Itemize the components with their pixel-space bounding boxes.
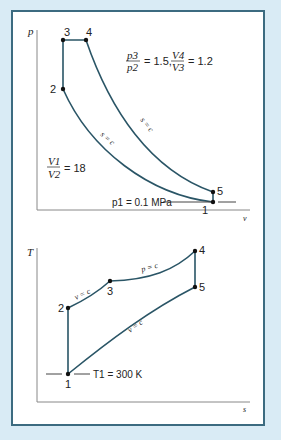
v-const-label-upper: v = c: [73, 286, 92, 301]
ts-point-1: 1: [65, 378, 71, 390]
p-const-label: p = c: [139, 261, 159, 274]
ratio-p-value: = 1.5,: [144, 55, 172, 67]
cr-num: V1: [48, 155, 60, 167]
t1-label: T1 = 300 K: [93, 369, 143, 380]
pv-point-2: 2: [50, 83, 56, 95]
pv-point-1: 1: [202, 204, 208, 216]
pv-point-3: 3: [64, 26, 70, 38]
cr-den: V2: [48, 168, 61, 180]
pv-diagram: p v 3 4 2 5 1 s = c s = c p3 p2 = 1.5, V…: [27, 25, 250, 223]
cr-value: = 18: [64, 162, 86, 174]
pv-point-4: 4: [86, 26, 92, 38]
p-axis-label: p: [27, 25, 34, 37]
ratio-v-den: V3: [172, 61, 185, 73]
ts-point-5: 5: [199, 281, 205, 293]
p1-label: p1 = 0.1 MPa: [112, 197, 172, 208]
t-axis-label: T: [27, 246, 34, 258]
ratio-p-num: p3: [126, 49, 139, 61]
ratio-p-den: p2: [126, 61, 139, 73]
ts-diagram: T s 1 2 3 4 5 v = c p = c v = c T1 = 300…: [27, 244, 250, 414]
ratio-v-value: = 1.2: [188, 55, 213, 67]
pv-point-5: 5: [217, 185, 223, 197]
v-const-label-lower: v = c: [126, 318, 145, 335]
ratio-v-num: V4: [172, 49, 185, 61]
v-axis-label: v: [243, 214, 247, 223]
isentrope-label-upper: s = c: [138, 116, 155, 135]
s-axis-label: s: [243, 405, 246, 414]
ts-point-4: 4: [199, 244, 205, 256]
ts-point-3: 3: [107, 285, 113, 297]
ts-point-2: 2: [58, 302, 64, 314]
cycle-diagrams: p v 3 4 2 5 1 s = c s = c p3 p2 = 1.5, V…: [0, 0, 281, 440]
